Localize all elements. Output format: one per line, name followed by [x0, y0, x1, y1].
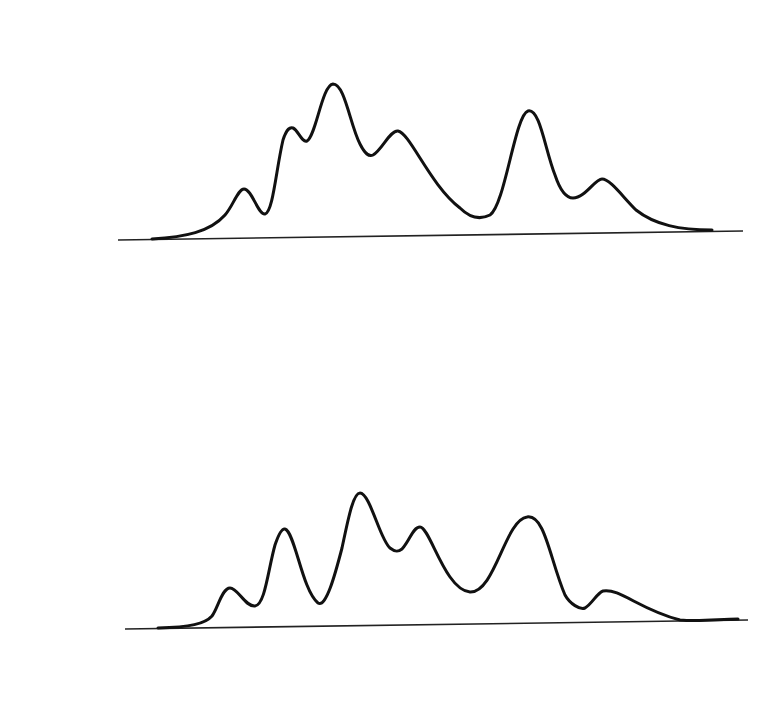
- axis-measurement-k-plus-1: [125, 620, 748, 629]
- axis-measurement-k: [118, 231, 743, 240]
- likelihood-curve-k-plus-1: [158, 493, 738, 628]
- likelihood-curve-k: [152, 84, 712, 239]
- particle-filter-diagram: [0, 0, 757, 702]
